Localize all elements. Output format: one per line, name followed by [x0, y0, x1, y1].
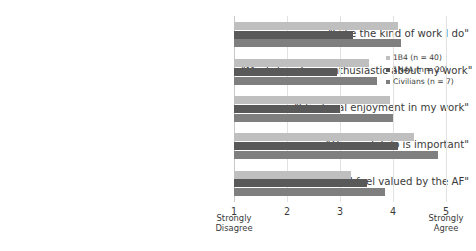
legend-label: 1B4 (n = 40): [393, 54, 442, 62]
bar: [234, 151, 438, 159]
axis-anchor-label: StronglyDisagree: [204, 214, 264, 233]
x-tick-3: 3: [320, 207, 360, 217]
legend-item[interactable]: 1B4 (n = 40): [386, 54, 454, 62]
bar: [234, 59, 369, 67]
bar: [234, 22, 398, 30]
gridline-5: [446, 16, 447, 202]
bar: [234, 31, 353, 39]
bar-group: [234, 90, 446, 127]
legend-swatch-icon: [386, 56, 390, 60]
x-tick-2: 2: [267, 207, 307, 217]
bar: [234, 68, 337, 76]
bar: [234, 77, 377, 85]
legend-swatch-icon: [386, 68, 390, 72]
bar: [234, 114, 393, 122]
chart-legend: 1B4 (n = 40)1N4A (n = 20)Civilians (n = …: [386, 54, 454, 91]
bar: [234, 39, 401, 47]
bar: [234, 133, 414, 141]
bar: [234, 96, 390, 104]
bar: [234, 171, 351, 179]
bar: [234, 142, 398, 150]
plot-area: [234, 16, 446, 202]
bar: [234, 188, 385, 196]
x-tick-4: 4: [373, 207, 413, 217]
axis-anchor-line: Disagree: [204, 224, 264, 234]
legend-label: 1N4A (n = 20): [393, 66, 448, 74]
bar-group: [234, 128, 446, 165]
legend-item[interactable]: 1N4A (n = 20): [386, 66, 454, 74]
legend-item[interactable]: Civilians (n = 7): [386, 78, 454, 86]
bar-group: [234, 16, 446, 53]
bar: [234, 179, 367, 187]
legend-label: Civilians (n = 7): [393, 78, 454, 86]
axis-anchor-label: StronglyAgree: [416, 214, 476, 233]
axis-anchor-line: Agree: [416, 224, 476, 234]
bar-group: [234, 165, 446, 202]
bar: [234, 105, 340, 113]
legend-swatch-icon: [386, 80, 390, 84]
